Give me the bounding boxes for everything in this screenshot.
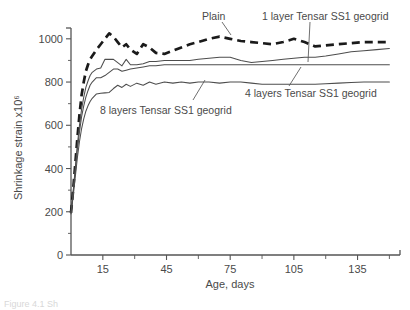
x-tick-label: 75 (224, 263, 236, 275)
x-tick-label: 15 (97, 263, 109, 275)
leader-plain (222, 22, 231, 35)
y-tick-label: 1000 (39, 33, 63, 45)
x-tick-label: 105 (285, 263, 303, 275)
figure-caption-fragment: Figure 4.1 Sh (4, 300, 124, 309)
y-tick-label: 600 (45, 119, 63, 131)
y-tick-label: 200 (45, 206, 63, 218)
shrinkage-strain-line-chart: 02004006008001000 154575105135 Shrinkage… (0, 0, 410, 310)
curve-series-1 (71, 49, 389, 213)
x-axis-ticks: 154575105135 (97, 255, 390, 275)
leader-1-layer (308, 22, 310, 62)
y-tick-label: 400 (45, 163, 63, 175)
y-axis-ticks: 02004006008001000 (39, 33, 71, 261)
series-label-4-layers: 4 layers Tensar SS1 geogrid (245, 87, 377, 99)
leader-4-layers (289, 67, 301, 86)
series-label-8-layers: 8 layers Tensar SS1 geogrid (100, 104, 232, 116)
y-axis-title: Shrinkage strain x10⁶ (12, 95, 24, 200)
series-label-1-layer: 1 layer Tensar SS1 geogrid (262, 10, 389, 22)
y-tick-label: 800 (45, 76, 63, 88)
x-tick-label: 45 (160, 263, 172, 275)
axes-group (66, 28, 400, 255)
data-curves (71, 33, 389, 214)
figure-container: 02004006008001000 154575105135 Shrinkage… (0, 0, 410, 310)
x-axis-title: Age, days (206, 278, 255, 290)
curve-series-0 (71, 33, 389, 212)
x-tick-label: 135 (348, 263, 366, 275)
series-label-plain: Plain (202, 10, 226, 22)
curve-series-3 (71, 82, 389, 214)
y-tick-label: 0 (57, 249, 63, 261)
